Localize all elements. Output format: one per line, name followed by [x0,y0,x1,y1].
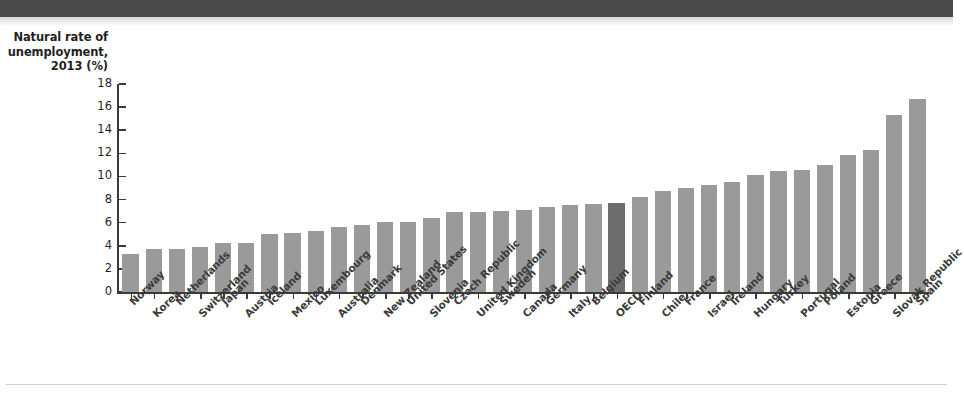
bar-turkey [770,171,786,292]
x-tick-korea [154,294,156,299]
x-tick-slovak-republic [894,294,896,299]
bar-poland [817,165,833,292]
x-tick-switzerland [200,294,202,299]
y-tick-label-14: 14 [82,124,112,136]
bar-france [678,188,694,292]
y-tick-label-2: 2 [82,263,112,275]
x-tick-canada [524,294,526,299]
bar-spain [909,99,925,292]
page-header-fade [0,17,953,26]
bar-ireland [724,182,740,292]
x-tick-italy [570,294,572,299]
page-header-band [0,0,953,17]
x-tick-mexico [293,294,295,299]
y-axis-caption: Natural rate of unemployment, 2013 (%) [4,30,108,74]
x-tick-estonia [848,294,850,299]
bar-norway [122,254,138,292]
x-tick-chile [663,294,665,299]
x-tick-austria [246,294,248,299]
y-axis-caption-line-1: Natural rate of [4,30,108,45]
y-axis-caption-line-2: unemployment, [4,45,108,60]
page-bottom-rule [6,384,947,385]
bar-chart: Natural rate of unemployment, 2013 (%) 0… [0,26,953,386]
y-tick-label-4: 4 [82,240,112,252]
x-tick-united-kingdom [478,294,480,299]
y-axis-caption-line-3: 2013 (%) [4,59,108,74]
x-tick-slovenia [431,294,433,299]
y-tick-label-16: 16 [82,101,112,113]
bar-slovak-republic [886,115,902,292]
y-tick-label-6: 6 [82,217,112,229]
x-tick-australia [339,294,341,299]
y-tick-label-10: 10 [82,170,112,182]
x-tick-hungary [755,294,757,299]
y-tick-label-12: 12 [82,147,112,159]
y-tick-label-0: 0 [82,286,112,298]
x-tick-israel [709,294,711,299]
x-tick-new-zealand [385,294,387,299]
y-tick-label-8: 8 [82,194,112,206]
bar-greece [863,150,879,292]
x-tick-portugal [802,294,804,299]
bar-netherlands [169,249,185,292]
x-tick-oecd [617,294,619,299]
bar-belgium [585,204,601,292]
y-tick-label-18: 18 [82,78,112,90]
bar-finland [632,197,648,292]
